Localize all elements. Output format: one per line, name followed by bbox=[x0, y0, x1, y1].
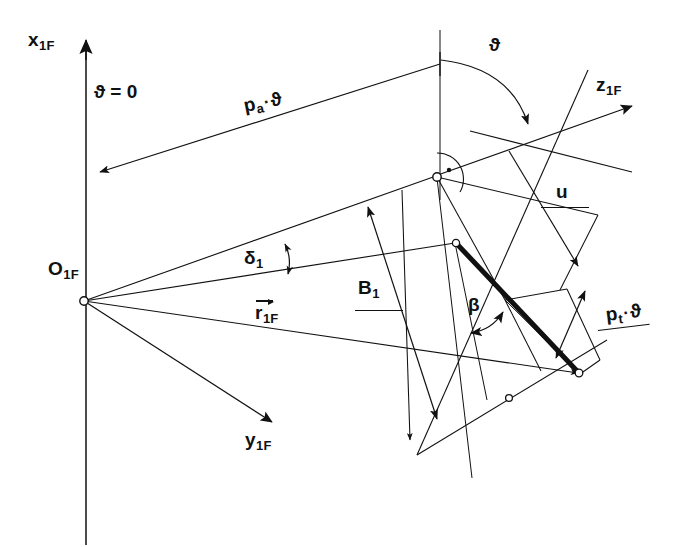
y-axis-subscript: 1F bbox=[256, 438, 272, 453]
B1-dimension-arrow bbox=[368, 207, 437, 419]
delta-subscript: 1 bbox=[256, 256, 264, 271]
B-1-dimension-label: B1 bbox=[358, 278, 380, 300]
pt-base: p bbox=[605, 303, 619, 325]
r-vector-wrap: r1F bbox=[255, 303, 278, 325]
beta-angle-label: β bbox=[468, 295, 480, 314]
origin-subscript: 1F bbox=[63, 267, 79, 282]
right-angle-marker bbox=[437, 153, 463, 192]
delta-base: δ bbox=[244, 247, 256, 268]
y-axis-1F-line bbox=[84, 301, 272, 422]
B1-leader-line bbox=[355, 310, 403, 311]
vector-arrow-icon bbox=[256, 300, 273, 302]
u-text: u bbox=[556, 181, 568, 202]
y-axis-1F-label: y1F bbox=[245, 430, 272, 452]
origin-base: O bbox=[48, 258, 63, 279]
z-axis-subscript: 1F bbox=[606, 83, 622, 98]
origin-rays bbox=[84, 176, 578, 373]
beta-text: β bbox=[468, 294, 480, 315]
B-subscript: 1 bbox=[372, 286, 380, 301]
pt-factor: ϑ bbox=[629, 300, 643, 322]
z-axis-1F-label: z1F bbox=[596, 75, 622, 97]
r-1F-vector-label: r1F bbox=[255, 303, 278, 325]
z-axis-base: z bbox=[596, 74, 606, 95]
pt-theta-parallelogram bbox=[505, 289, 600, 374]
theta-angle-label: ϑ bbox=[489, 35, 500, 54]
u-dimension-label: u bbox=[556, 182, 568, 201]
pa-theta-dimension-line bbox=[100, 30, 440, 200]
origin-label-O1F: O1F bbox=[48, 259, 79, 281]
r-subscript: 1F bbox=[262, 311, 278, 326]
x-axis-subscript: 1F bbox=[39, 38, 55, 53]
x-axis-base: x bbox=[28, 29, 39, 50]
z-axis-1F-line bbox=[435, 106, 632, 176]
pt-theta-dimension-label: pt·ϑ bbox=[605, 301, 643, 327]
delta-1-angle-label: δ1 bbox=[244, 248, 263, 270]
theta-angle-arc bbox=[441, 60, 528, 124]
B-base: B bbox=[358, 277, 372, 298]
lower-support-lines bbox=[402, 178, 607, 478]
x-axis-1F-label: x1F bbox=[28, 30, 55, 52]
diagram-canvas: x1F ϑ = 0 pa·ϑ ϑ z1F u O1F δ1 r1F B1 bbox=[0, 0, 684, 547]
construction-quadrilateral bbox=[437, 131, 632, 300]
geometry-nodes bbox=[80, 173, 583, 402]
theta-direction-line bbox=[417, 70, 588, 455]
theta-zero-text: ϑ = 0 bbox=[94, 81, 137, 102]
y-axis-base: y bbox=[245, 429, 256, 450]
u-leader-line bbox=[541, 207, 589, 208]
theta-zero-label: ϑ = 0 bbox=[94, 82, 137, 101]
theta-angle-text: ϑ bbox=[489, 34, 500, 55]
